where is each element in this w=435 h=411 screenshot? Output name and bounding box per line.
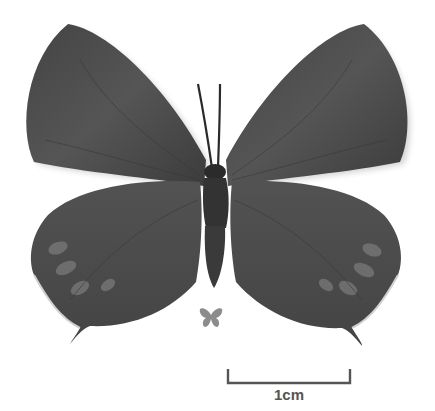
scale-bar bbox=[225, 368, 355, 388]
specimen-photo: 1cm bbox=[0, 0, 435, 411]
butterfly-illustration bbox=[0, 0, 435, 411]
right-forewing bbox=[226, 24, 408, 186]
left-forewing bbox=[26, 24, 206, 186]
thorax bbox=[203, 178, 229, 228]
right-antenna bbox=[218, 84, 220, 168]
left-hindwing bbox=[31, 181, 202, 344]
right-hindwing bbox=[230, 181, 401, 346]
actual-size-butterfly-icon bbox=[199, 307, 223, 329]
abdomen bbox=[205, 226, 225, 288]
head bbox=[204, 164, 226, 180]
scale-bar-label: 1cm bbox=[228, 386, 350, 403]
